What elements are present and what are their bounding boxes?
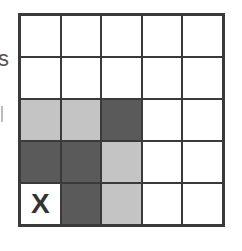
grid-cell-r3-c4 (183, 142, 222, 182)
grid-cell-r2-c1 (62, 100, 101, 140)
grid-cell-r1-c1 (62, 58, 101, 98)
grid-cell-r2-c4 (183, 100, 222, 140)
grid-cell-r0-c2 (102, 16, 141, 56)
grid-cell-r3-c0 (21, 142, 60, 182)
grid-cell-r2-c3 (143, 100, 182, 140)
edge-mark (1, 106, 3, 122)
grid-cell-r4-c0: X (21, 184, 60, 224)
grid-cell-r0-c4 (183, 16, 222, 56)
grid-cell-r1-c0 (21, 58, 60, 98)
grid-cell-r4-c2 (102, 184, 141, 224)
grid-cell-r0-c1 (62, 16, 101, 56)
grid-cell-r1-c2 (102, 58, 141, 98)
grid-cell-r0-c3 (143, 16, 182, 56)
grid-cell-r1-c3 (143, 58, 182, 98)
grid-cell-r4-c3 (143, 184, 182, 224)
grid-cell-r4-c4 (183, 184, 222, 224)
edge-text-fragment: s (0, 48, 9, 70)
grid-cell-r4-c1 (62, 184, 101, 224)
grid-cell-r2-c0 (21, 100, 60, 140)
grid-cell-r2-c2 (102, 100, 141, 140)
grid-cell-r3-c1 (62, 142, 101, 182)
grid-cell-r3-c3 (143, 142, 182, 182)
grid-cell-r1-c4 (183, 58, 222, 98)
grid-cell-r3-c2 (102, 142, 141, 182)
shaded-grid: X (18, 13, 225, 227)
grid-cell-r0-c0 (21, 16, 60, 56)
